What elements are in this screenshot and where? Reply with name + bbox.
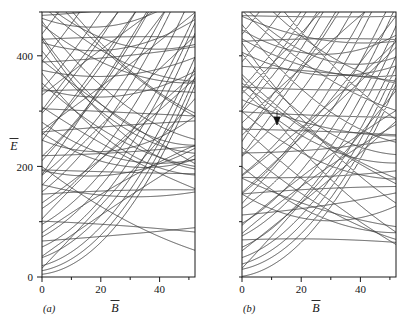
x-axis-title-text: B — [111, 301, 119, 315]
panel-a-y-axis-title: E — [9, 139, 18, 154]
panel-b-xtick-20: 20 — [296, 283, 308, 295]
panel-a-ytick-0: 0 — [28, 271, 34, 283]
panel-a-ytick-200: 200 — [17, 161, 34, 173]
panel-a-ytick-400: 400 — [17, 50, 34, 62]
panel-b-x-axis-title: B — [312, 301, 321, 316]
panel-b-xtick-0: 0 — [239, 283, 245, 295]
panel-b-label: (b) — [243, 303, 256, 315]
panel-b-xtick-40: 40 — [355, 283, 367, 295]
panel-a-xtick-40: 40 — [154, 283, 166, 295]
figure-canvas: 0 200 400 0 20 40 E B (a) — [0, 0, 410, 327]
panel-a-xtick-20: 20 — [95, 283, 107, 295]
panel-a-xtick-0: 0 — [39, 283, 45, 295]
figure-two-panel-level-spectra: 0 200 400 0 20 40 E B (a) — [0, 0, 410, 327]
panel-a-label: (a) — [43, 303, 56, 315]
y-axis-title-text: E — [9, 139, 18, 153]
panel-a-x-axis-title: B — [111, 301, 120, 316]
x-axis-title-text: B — [312, 301, 320, 315]
